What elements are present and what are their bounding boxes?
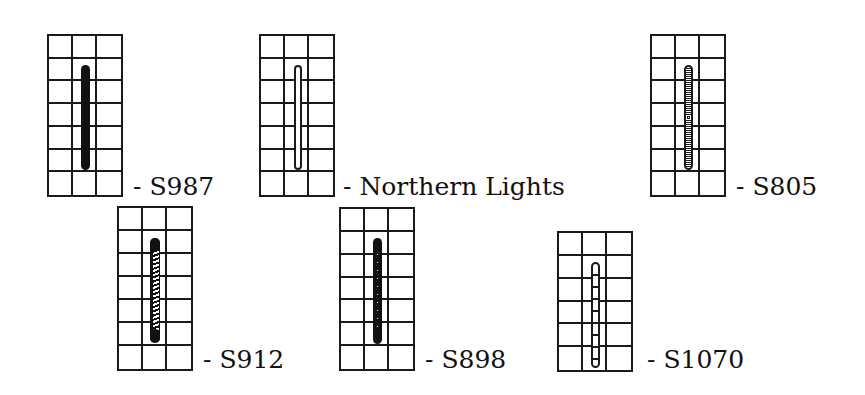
grid-cell (167, 231, 191, 254)
grid-cell (49, 127, 73, 150)
grid-cell (652, 104, 676, 127)
grid-cell (119, 323, 143, 346)
grid-cell (285, 36, 309, 59)
grid-cell (261, 172, 285, 195)
stitch-line-icon (150, 238, 160, 343)
grid-cell (700, 127, 724, 150)
grid-cell (119, 208, 143, 231)
grid-cell (49, 81, 73, 104)
swatch-northern-lights (259, 34, 335, 197)
grid-cell (559, 302, 583, 325)
stitch-line-icon (591, 262, 600, 368)
grid-cell (143, 208, 167, 231)
grid-cell (607, 279, 631, 302)
grid-cell (700, 59, 724, 82)
swatch-label: - S912 (203, 347, 284, 372)
grid-cell (607, 347, 631, 370)
grid-cell (49, 150, 73, 173)
grid-cell (700, 150, 724, 173)
grid-cell (167, 300, 191, 323)
grid-cell (389, 323, 413, 346)
grid-cell (607, 233, 631, 256)
grid-cell (583, 233, 607, 256)
grid-cell (309, 104, 333, 127)
grid-cell (700, 104, 724, 127)
grid-cell (309, 81, 333, 104)
grid-cell (97, 104, 121, 127)
grid-cell (309, 127, 333, 150)
grid-cell (143, 346, 167, 369)
grid-cell (559, 279, 583, 302)
grid-cell (559, 233, 583, 256)
stitch-line-icon (373, 238, 382, 344)
grid-cell (97, 59, 121, 82)
swatch-s987 (47, 34, 123, 197)
stitch-cap-icon (150, 238, 160, 252)
grid-cell (167, 346, 191, 369)
grid-cell (652, 81, 676, 104)
grid-cell (389, 300, 413, 323)
grid-cell (261, 36, 285, 59)
grid-cell (559, 256, 583, 279)
grid-cell (49, 59, 73, 82)
grid-cell (285, 172, 309, 195)
grid-cell (700, 172, 724, 195)
swatch-s912 (117, 206, 193, 371)
grid-cell (607, 324, 631, 347)
grid-cell (97, 172, 121, 195)
grid-cell (389, 209, 413, 232)
grid-cell (559, 324, 583, 347)
stitch-line-icon (684, 65, 693, 170)
grid-cell (309, 59, 333, 82)
swatch-s805 (650, 34, 726, 197)
grid-cell (97, 150, 121, 173)
grid-cell (652, 59, 676, 82)
grid-cell (119, 277, 143, 300)
grid-cell (676, 172, 700, 195)
swatch-s898 (339, 207, 415, 371)
swatch-label: - Northern Lights (343, 174, 565, 199)
grid-cell (700, 36, 724, 59)
grid-cell (389, 346, 413, 369)
grid-cell (341, 300, 365, 323)
grid-cell (167, 277, 191, 300)
grid-cell (676, 36, 700, 59)
grid-cell (49, 104, 73, 127)
grid-cell (309, 150, 333, 173)
grid-cell (167, 254, 191, 277)
grid-cell (119, 231, 143, 254)
grid-cell (97, 36, 121, 59)
grid-cell (652, 172, 676, 195)
grid-cell (341, 232, 365, 255)
grid-cell (652, 150, 676, 173)
swatch-label: - S898 (425, 347, 506, 372)
grid-cell (49, 36, 73, 59)
grid-cell (341, 346, 365, 369)
grid-cell (261, 104, 285, 127)
grid-cell (73, 36, 97, 59)
swatch-label: - S1070 (647, 347, 744, 372)
grid-cell (341, 209, 365, 232)
grid-cell (389, 278, 413, 301)
grid-cell (389, 232, 413, 255)
grid-cell (559, 347, 583, 370)
grid-cell (119, 300, 143, 323)
grid-cell (309, 36, 333, 59)
swatch-label: - S805 (736, 174, 817, 199)
grid-cell (700, 81, 724, 104)
grid-cell (309, 172, 333, 195)
grid-cell (167, 208, 191, 231)
grid-cell (341, 323, 365, 346)
grid-cell (389, 255, 413, 278)
swatch-s1070 (557, 231, 633, 372)
grid-cell (261, 150, 285, 173)
grid-cell (261, 127, 285, 150)
stitch-line-icon (294, 65, 302, 170)
grid-cell (261, 59, 285, 82)
grid-cell (97, 127, 121, 150)
swatch-label: - S987 (133, 174, 214, 199)
grid-cell (652, 127, 676, 150)
grid-cell (119, 254, 143, 277)
grid-cell (119, 346, 143, 369)
grid-cell (341, 278, 365, 301)
